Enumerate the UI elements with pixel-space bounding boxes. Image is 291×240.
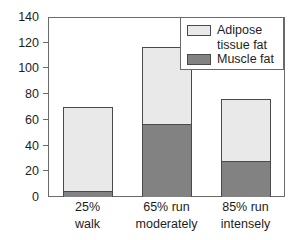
y-axis-tick: 80 xyxy=(0,87,48,101)
y-axis-tick-label: 80 xyxy=(25,87,39,101)
x-axis-category-label: 25%walk xyxy=(48,199,127,233)
stacked-bar-chart: 020406080100120140 25%walk65% runmoderat… xyxy=(0,0,291,240)
y-axis-tick: 40 xyxy=(0,139,48,153)
x-axis-labels: 25%walk65% runmoderately85% runintensely xyxy=(48,199,285,239)
legend-swatch-adipose-icon xyxy=(187,25,211,36)
legend-entry-adipose: Adipose tissue fat xyxy=(187,23,267,52)
bar-segment-muscle xyxy=(222,161,270,197)
y-axis-tick: 120 xyxy=(0,36,48,50)
y-axis-tick-label: 40 xyxy=(25,139,39,153)
bar-segment-adipose xyxy=(222,100,270,161)
bar-stack xyxy=(63,107,113,197)
legend-swatch-muscle-icon xyxy=(187,54,211,65)
x-axis-category-line2: walk xyxy=(48,216,127,233)
y-axis-tick-label: 60 xyxy=(25,113,39,127)
x-axis-category-line1: 85% run xyxy=(206,199,285,216)
y-axis-tick-label: 20 xyxy=(25,164,39,178)
y-axis-tick: 0 xyxy=(0,190,48,204)
legend: Adipose tissue fat Muscle fat xyxy=(180,17,284,70)
x-axis-category-line2: moderately xyxy=(127,216,206,233)
bar-segment-adipose xyxy=(64,108,112,191)
y-axis-tick-label: 120 xyxy=(18,36,39,50)
x-axis-category-line2: intensely xyxy=(206,216,285,233)
bar-segment-muscle xyxy=(64,191,112,197)
y-axis-tick-label: 100 xyxy=(18,61,39,75)
bar-stack xyxy=(221,99,271,197)
y-axis-tick: 60 xyxy=(0,113,48,127)
y-axis-tick: 140 xyxy=(0,10,48,24)
x-axis-category-line1: 65% run xyxy=(127,199,206,216)
bar-segment-muscle xyxy=(143,124,191,197)
y-axis-tick-label: 140 xyxy=(18,10,39,24)
y-axis-tick: 100 xyxy=(0,61,48,75)
legend-entry-muscle: Muscle fat xyxy=(187,52,274,67)
legend-label-adipose: Adipose tissue fat xyxy=(217,23,267,52)
x-axis-category-line1: 25% xyxy=(48,199,127,216)
legend-label-muscle: Muscle fat xyxy=(217,52,274,67)
x-axis-category-label: 85% runintensely xyxy=(206,199,285,233)
y-axis-tick: 20 xyxy=(0,164,48,178)
y-axis-tick-label: 0 xyxy=(32,190,39,204)
x-axis-category-label: 65% runmoderately xyxy=(127,199,206,233)
